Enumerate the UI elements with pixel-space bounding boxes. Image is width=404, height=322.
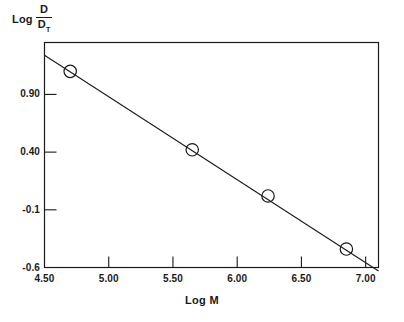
y-axis-title-fraction: D DT <box>36 4 53 32</box>
fit-line <box>45 55 379 271</box>
y-tick-label-2: -0.1 <box>6 204 40 215</box>
plot-frame <box>45 43 379 268</box>
data-point-3 <box>340 243 352 255</box>
y-tick-label-1: 0.40 <box>6 146 40 157</box>
data-point-1 <box>186 144 198 156</box>
y-tick-label-0: 0.90 <box>6 88 40 99</box>
chart-figure: Log D DT 0.90 0.40 -0.1 -0.6 4.50 5.00 5… <box>0 0 404 322</box>
y-axis-title-word: Log <box>12 14 33 25</box>
y-tick-marks <box>45 94 57 209</box>
data-point-0 <box>64 65 76 77</box>
x-tick-marks <box>109 257 366 268</box>
x-axis-title: Log M <box>0 294 404 306</box>
x-tick-label-3: 6.00 <box>217 273 257 284</box>
x-tick-label-1: 5.00 <box>89 273 129 284</box>
y-tick-label-3: -0.6 <box>6 262 40 273</box>
y-axis-title: Log D DT <box>12 5 52 33</box>
fraction-denominator-subscript: T <box>46 26 50 33</box>
x-tick-label-4: 6.50 <box>281 273 321 284</box>
fraction-numerator: D <box>38 4 50 16</box>
x-tick-label-0: 4.50 <box>25 273 65 284</box>
x-tick-label-2: 5.50 <box>153 273 193 284</box>
fraction-denominator: DT <box>36 19 53 33</box>
fraction-denominator-base: D <box>38 18 46 30</box>
x-tick-label-5: 7.00 <box>346 273 386 284</box>
data-point-2 <box>262 190 274 202</box>
